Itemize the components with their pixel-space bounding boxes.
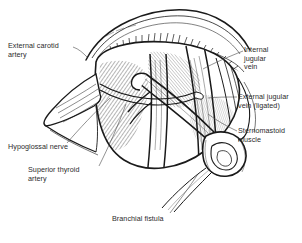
figure-canvas: External carotid artery Internal jugular… xyxy=(0,0,302,243)
label-external-carotid-artery: External carotid artery xyxy=(8,42,59,59)
label-superior-thyroid-artery: Superior thyroid artery xyxy=(28,166,80,183)
leader-external-carotid-artery xyxy=(73,47,87,57)
label-sternomastoid-muscle: Sternomastoid muscle xyxy=(238,127,285,144)
label-internal-jugular-vein: Internal jugular vein xyxy=(244,46,268,72)
leader-branchial-fistula xyxy=(170,174,198,213)
anatomical-illustration xyxy=(0,0,302,243)
label-external-jugular-vein-ligated: External jugular vein (ligated) xyxy=(238,93,289,110)
label-branchial-fistula: Branchial fistula xyxy=(112,215,164,224)
label-hypoglossal-nerve: Hypoglossal nerve xyxy=(8,143,68,152)
